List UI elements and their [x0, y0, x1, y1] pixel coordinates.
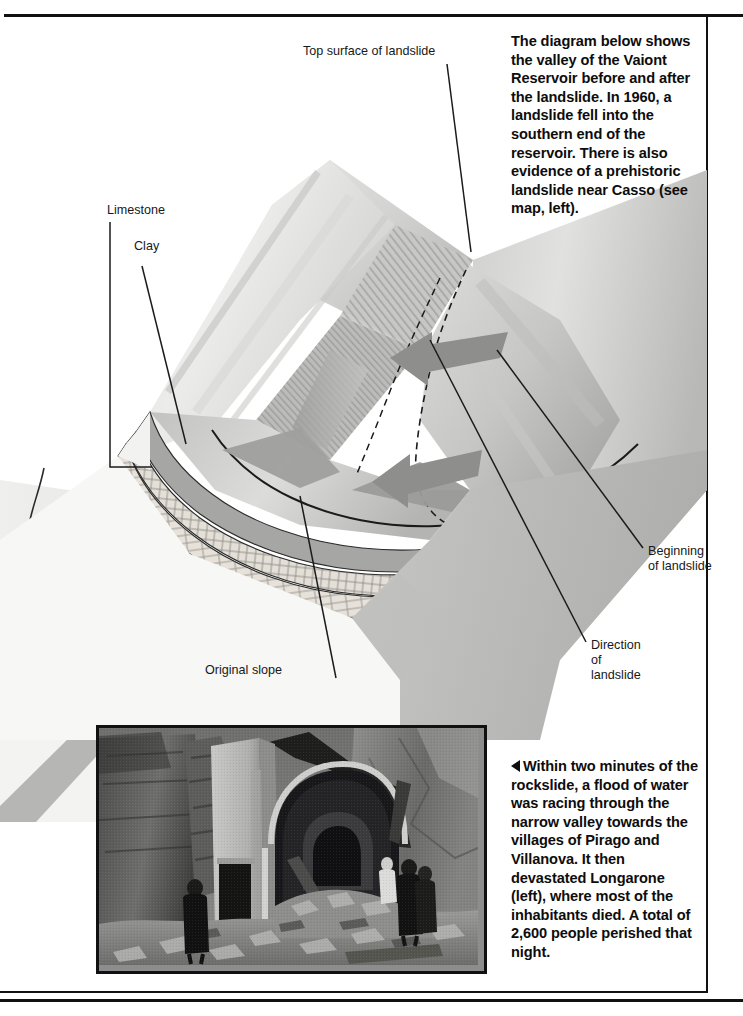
callout-limestone: Limestone [107, 203, 165, 218]
page-rule-bottom [0, 999, 743, 1002]
callout-top-surface-of-landslide: Top surface of landslide [303, 44, 435, 59]
photograph-longarone-ruins [96, 725, 487, 974]
page-rule-inner-bottom [0, 991, 708, 993]
photo-caption-text: Within two minutes of the rockslide, a f… [511, 758, 698, 960]
callout-beginning-of-landslide: Beginning of landslide [648, 544, 712, 574]
leader-top-surface [447, 64, 471, 252]
callout-direction-of-landslide: Direction of landslide [591, 638, 641, 683]
caption-left-triangle-icon [511, 760, 520, 772]
page-root: Top surface of landslide Limestone Clay … [0, 0, 743, 1016]
photo-caption: Within two minutes of the rockslide, a f… [511, 757, 701, 962]
callout-clay: Clay [134, 239, 159, 254]
callout-original-slope: Original slope [205, 663, 282, 678]
page-rule-top [4, 14, 743, 17]
intro-paragraph: The diagram below shows the valley of th… [511, 32, 697, 218]
